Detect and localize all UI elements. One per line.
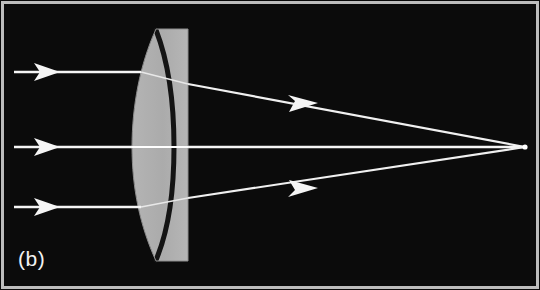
panel-label: (b) <box>18 248 45 269</box>
figure-inner-plate <box>6 6 534 284</box>
ray-diagram-svg <box>0 0 540 290</box>
figure-panel: (b) <box>0 0 540 290</box>
focal-point-marker <box>522 144 527 149</box>
